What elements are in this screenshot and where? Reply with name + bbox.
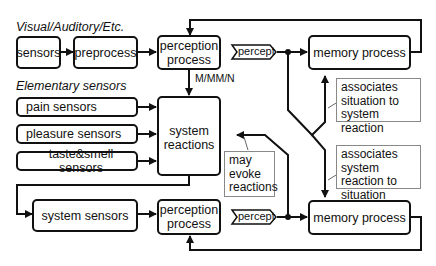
sensors-box: sensors: [16, 36, 61, 69]
memory-process-top: memory process: [308, 35, 411, 70]
mmm-label: M/MM/N: [195, 72, 235, 84]
associates-reaction-note: associates system reaction to situation: [336, 145, 421, 189]
elementary-heading: Elementary sensors: [16, 79, 126, 93]
system-sensors-box: system sensors: [32, 199, 138, 232]
percept-label-top: percept: [238, 45, 275, 57]
memory-process-bottom: memory process: [308, 200, 411, 235]
system-reactions-box: system reactions: [157, 96, 221, 176]
visual-heading: Visual/Auditory/Etc.: [16, 20, 124, 34]
may-evoke-note: may evoke reactions: [224, 151, 275, 197]
taste-smell-sensors-box: taste&smell sensors: [16, 151, 138, 171]
associates-situation-note: associates situation to system reaction: [336, 78, 421, 122]
pleasure-sensors-box: pleasure sensors: [16, 124, 138, 144]
perception-process-bottom: perception process: [157, 199, 221, 235]
pain-sensors-box: pain sensors: [16, 97, 138, 117]
perception-process-top: perception process: [157, 35, 221, 70]
preprocess-box: preprocess: [73, 36, 138, 69]
percept-label-bottom: percept: [238, 210, 275, 222]
